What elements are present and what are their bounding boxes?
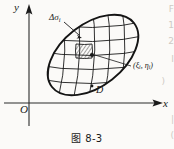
origin-label: O: [20, 104, 28, 115]
hatched-subregion: [76, 44, 93, 59]
figure-8-3: y x O Δσi (ξi, ηi) D 图 8-3 F 1 2 I ) | (: [0, 0, 174, 149]
axis-label-x: x: [163, 98, 168, 109]
point-label-close: ): [150, 61, 153, 70]
side-bleed-2: 2: [168, 36, 174, 46]
side-bleed-0: F: [169, 4, 174, 14]
sample-point-dot: [90, 53, 94, 57]
figure-drawing: [0, 0, 174, 149]
side-bleed-1: 1: [168, 20, 174, 30]
side-bleed-3: I: [171, 54, 174, 64]
region-label-d: D: [96, 85, 103, 95]
subregion-label: Δσi: [49, 13, 61, 23]
side-bleed-6: |: [171, 114, 174, 124]
point-leader-line: [95, 55, 131, 66]
side-bleed-4: ): [161, 76, 165, 86]
boundary-dot: [91, 85, 94, 88]
point-label-mid: , η: [141, 61, 149, 70]
subregion-label-subscript: i: [59, 16, 61, 23]
subregion-label-main: Δσ: [49, 12, 59, 22]
axis-label-y: y: [14, 2, 19, 13]
figure-caption: 图 8-3: [0, 130, 174, 145]
side-bleed-7: (: [170, 130, 174, 140]
sample-point-label: (ξi, ηi): [133, 62, 153, 71]
